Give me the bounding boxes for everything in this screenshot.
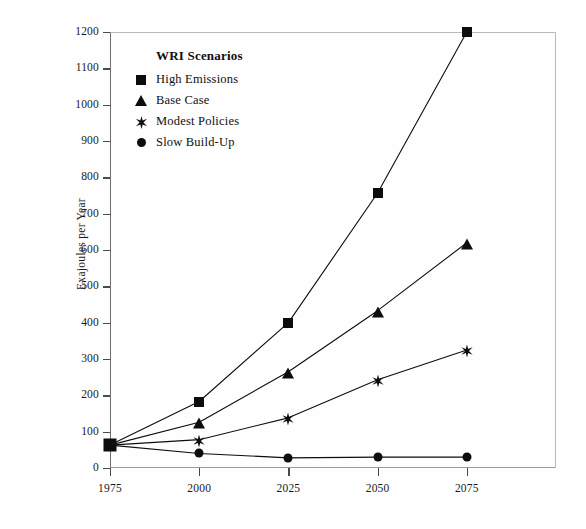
x-tick-mark: [199, 468, 200, 476]
x-tick-mark: [288, 468, 289, 476]
x-tick-mark: [110, 468, 111, 476]
data-point-circle: [462, 453, 471, 462]
data-point-star: [460, 343, 473, 356]
legend-item-high-emissions[interactable]: High Emissions: [126, 69, 243, 90]
legend-item-label: Base Case: [156, 93, 210, 108]
square-marker-icon: [126, 75, 156, 85]
y-tick-label: 1200: [75, 23, 99, 39]
y-tick-mark: [103, 32, 110, 33]
y-tick-label: 900: [81, 132, 99, 148]
y-tick-mark: [103, 323, 110, 324]
y-tick-label: 400: [81, 314, 99, 330]
y-tick-mark: [103, 395, 110, 396]
data-point-star: [371, 373, 384, 386]
legend-item-slow-build-up[interactable]: Slow Build-Up: [126, 132, 243, 153]
y-tick-mark: [103, 177, 110, 178]
data-point-triangle: [461, 238, 473, 249]
y-tick-600: 600: [0, 250, 110, 251]
y-tick-mark: [103, 468, 110, 469]
legend: WRI Scenarios High EmissionsBase CaseMod…: [126, 48, 243, 153]
y-tick-1100: 1100: [0, 68, 110, 69]
y-tick-mark: [103, 68, 110, 69]
y-tick-label: 300: [81, 350, 99, 366]
data-point-square: [462, 27, 472, 37]
data-point-circle: [284, 453, 293, 462]
y-tick-200: 200: [0, 395, 110, 396]
data-point-star: [282, 411, 295, 424]
y-tick-mark: [103, 286, 110, 287]
data-point-circle: [373, 453, 382, 462]
x-tick-label: 2025: [276, 482, 300, 494]
y-tick-1000: 1000: [0, 105, 110, 106]
data-point-triangle: [193, 418, 205, 429]
data-point-square: [283, 318, 293, 328]
x-tick-mark: [378, 468, 379, 476]
star-marker-icon: [126, 115, 156, 128]
y-tick-300: 300: [0, 359, 110, 360]
data-point-square: [373, 188, 383, 198]
y-tick-label: 200: [81, 386, 99, 402]
legend-item-modest-policies[interactable]: Modest Policies: [126, 111, 243, 132]
y-tick-mark: [103, 141, 110, 142]
x-tick-label: 2075: [455, 482, 479, 494]
x-tick-label: 2000: [187, 482, 211, 494]
data-point-triangle: [372, 306, 384, 317]
y-tick-900: 900: [0, 141, 110, 142]
y-tick-label: 600: [81, 241, 99, 257]
legend-title: WRI Scenarios: [156, 48, 243, 64]
legend-item-label: Slow Build-Up: [156, 135, 235, 150]
chart-figure: Exajoules per Year 010020030040050060070…: [0, 0, 586, 529]
x-tick-label: 2050: [366, 482, 390, 494]
data-point-origin: [104, 439, 117, 452]
y-tick-label: 0: [93, 459, 99, 475]
y-tick-mark: [103, 359, 110, 360]
y-tick-mark: [103, 214, 110, 215]
y-tick-1200: 1200: [0, 32, 110, 33]
y-tick-label: 800: [81, 168, 99, 184]
y-tick-100: 100: [0, 432, 110, 433]
y-tick-700: 700: [0, 214, 110, 215]
y-tick-mark: [103, 105, 110, 106]
legend-rows: High EmissionsBase CaseModest PoliciesSl…: [126, 69, 243, 153]
y-tick-label: 100: [81, 423, 99, 439]
y-tick-800: 800: [0, 177, 110, 178]
y-tick-400: 400: [0, 323, 110, 324]
y-tick-label: 500: [81, 277, 99, 293]
y-tick-mark: [103, 432, 110, 433]
data-point-triangle: [282, 367, 294, 378]
y-tick-label: 1000: [75, 96, 99, 112]
data-point-circle: [195, 449, 204, 458]
y-tick-500: 500: [0, 286, 110, 287]
x-tick-mark: [467, 468, 468, 476]
triangle-marker-icon: [126, 95, 156, 106]
legend-item-label: High Emissions: [156, 72, 238, 87]
circle-marker-icon: [126, 138, 156, 147]
y-tick-label: 1100: [76, 59, 99, 75]
legend-item-label: Modest Policies: [156, 114, 239, 129]
data-point-star: [193, 433, 206, 446]
x-tick-label: 1975: [98, 482, 122, 494]
y-tick-0: 0: [0, 468, 110, 469]
y-tick-label: 700: [81, 205, 99, 221]
y-tick-mark: [103, 250, 110, 251]
data-point-square: [194, 397, 204, 407]
legend-item-base-case[interactable]: Base Case: [126, 90, 243, 111]
